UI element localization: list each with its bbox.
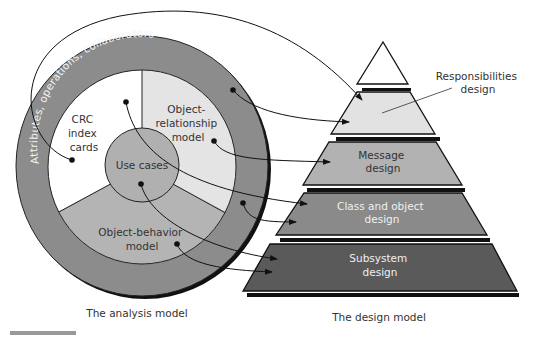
design-model: Message design Class and object design S… xyxy=(243,42,520,323)
design-model-caption: The design model xyxy=(331,311,426,323)
pyramid-apex xyxy=(357,42,408,84)
message-design-label: Message design xyxy=(358,149,407,174)
crc-label: CRC index cards xyxy=(68,113,100,153)
use-cases-label: Use cases xyxy=(116,159,169,171)
analysis-model: Attributes, operations, collaborators CR… xyxy=(16,27,271,319)
responsibilities-callout: Responsibilities design xyxy=(436,70,521,95)
figure-caption-fragment xyxy=(10,331,76,335)
analysis-model-caption: The analysis model xyxy=(85,307,187,319)
analysis-to-design-diagram: Attributes, operations, collaborators CR… xyxy=(0,0,537,337)
